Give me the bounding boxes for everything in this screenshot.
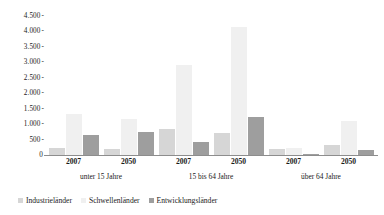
- x-axis-group-label: 15 bis 64 Jahre: [189, 172, 234, 181]
- y-axis-tick: 4.000-: [0, 27, 44, 35]
- legend-label: Schwellenländer: [89, 196, 140, 205]
- y-axis-tick-mark: -: [42, 89, 45, 97]
- y-axis-tick-label: 3.500: [24, 43, 41, 51]
- bar: [66, 114, 82, 155]
- bars-layer: [46, 16, 376, 155]
- bar: [324, 145, 340, 155]
- bar: [341, 121, 357, 155]
- y-axis-tick-mark: -: [42, 74, 45, 82]
- x-axis-year-label: 2050: [121, 157, 136, 166]
- chart-legend: IndustrieländerSchwellenländerEntwicklun…: [18, 196, 217, 205]
- bar: [248, 117, 264, 155]
- y-axis-tick-label: 0: [39, 151, 43, 159]
- bar-group: [211, 16, 266, 155]
- legend-item[interactable]: Industrieländer: [18, 196, 72, 205]
- y-axis-tick-mark: -: [42, 12, 45, 20]
- y-axis-tick-label: 2.000: [24, 89, 41, 97]
- bar: [303, 154, 319, 155]
- y-axis-tick-label: 500: [29, 136, 40, 144]
- bar: [193, 142, 209, 155]
- y-axis-tick-label: 4.000: [24, 27, 41, 35]
- y-axis-tick-mark: -: [42, 120, 45, 128]
- bar: [358, 150, 374, 155]
- bar: [104, 149, 120, 155]
- x-axis-year-label: 2050: [231, 157, 246, 166]
- y-axis-tick: 4.500-: [0, 12, 44, 20]
- bar: [176, 65, 192, 155]
- y-axis-tick-label: 4.500: [24, 12, 41, 20]
- y-axis-tick-mark: -: [42, 27, 45, 35]
- y-axis-tick: 500-: [0, 136, 44, 144]
- bar: [83, 135, 99, 155]
- x-axis-group-label: über 64 Jahre: [301, 172, 341, 181]
- legend-item[interactable]: Schwellenländer: [81, 196, 140, 205]
- y-axis-tick: 1.000-: [0, 120, 44, 128]
- y-axis-tick-label: 2.500: [24, 74, 41, 82]
- y-axis-tick-label: 1.500: [24, 105, 41, 113]
- plot-area: [46, 16, 376, 155]
- x-axis-group-labels: unter 15 Jahre15 bis 64 Jahreüber 64 Jah…: [46, 172, 376, 186]
- legend-label: Entwicklungsländer: [157, 196, 218, 205]
- x-axis-year-label: 2050: [341, 157, 356, 166]
- bar: [138, 132, 154, 155]
- y-axis: 4.500-4.000-3.500-3.000-2.500-2.000-1.50…: [0, 16, 44, 155]
- bar-group: [321, 16, 376, 155]
- bar: [214, 133, 230, 155]
- bar: [121, 119, 137, 155]
- bar: [286, 148, 302, 155]
- x-axis-group-label: unter 15 Jahre: [80, 172, 122, 181]
- x-axis-baseline: [44, 155, 378, 156]
- y-axis-tick-mark: -: [42, 136, 45, 144]
- bar-group: [156, 16, 211, 155]
- y-axis-tick-mark: -: [42, 58, 45, 66]
- y-axis-tick: 3.000-: [0, 58, 44, 66]
- y-axis-tick: 1.500-: [0, 105, 44, 113]
- y-axis-tick-label: 3.000: [24, 58, 41, 66]
- legend-swatch-icon: [81, 198, 86, 203]
- y-axis-tick-mark: -: [42, 105, 45, 113]
- y-axis-tick: 2.000-: [0, 89, 44, 97]
- bar-chart: 4.500-4.000-3.500-3.000-2.500-2.000-1.50…: [0, 0, 384, 215]
- legend-swatch-icon: [149, 198, 154, 203]
- legend-swatch-icon: [18, 198, 23, 203]
- bar: [269, 149, 285, 155]
- x-axis-year-label: 2007: [66, 157, 81, 166]
- y-axis-tick: 0: [0, 151, 44, 159]
- x-axis-year-label: 2007: [286, 157, 301, 166]
- x-axis-year-label: 2007: [176, 157, 191, 166]
- bar: [49, 148, 65, 155]
- y-axis-tick: 3.500-: [0, 43, 44, 51]
- y-axis-tick-label: 1.000: [24, 120, 41, 128]
- y-axis-tick-mark: -: [42, 43, 45, 51]
- bar: [159, 129, 175, 155]
- x-axis-year-labels: 200720502007205020072050: [46, 157, 376, 171]
- bar: [231, 27, 247, 155]
- y-axis-tick: 2.500-: [0, 74, 44, 82]
- legend-label: Industrieländer: [26, 196, 72, 205]
- bar-group: [46, 16, 101, 155]
- legend-item[interactable]: Entwicklungsländer: [149, 196, 218, 205]
- bar-group: [101, 16, 156, 155]
- bar-group: [266, 16, 321, 155]
